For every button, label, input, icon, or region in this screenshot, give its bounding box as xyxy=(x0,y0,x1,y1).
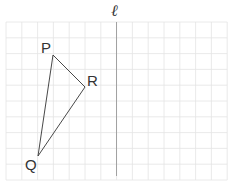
mirror-line-label: ℓ xyxy=(111,1,118,20)
reflection-diagram: ℓ P R Q xyxy=(0,0,239,192)
vertex-label-p: P xyxy=(41,39,51,56)
vertex-label-r: R xyxy=(87,72,98,89)
triangle-pqr xyxy=(38,55,85,156)
vertex-label-q: Q xyxy=(25,156,37,173)
